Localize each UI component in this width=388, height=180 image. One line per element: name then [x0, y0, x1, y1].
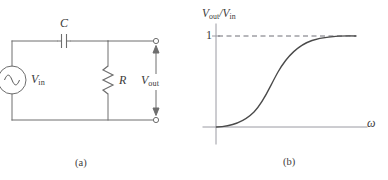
plot-y-axis-label-den-sub: in [230, 12, 236, 21]
plot-x-axis-label: ω [367, 117, 375, 129]
output-terminal-bottom [153, 117, 158, 122]
output-terminal-top [153, 38, 158, 43]
sine-wave-icon [5, 75, 20, 85]
output-label-subscript: out [148, 79, 159, 88]
vout-arrowhead-up [153, 46, 159, 54]
output-label: Vout [141, 74, 159, 88]
capacitor-label: C [60, 17, 68, 29]
ac-source-circle [0, 66, 26, 94]
source-label-subscript: in [38, 78, 45, 87]
plot-y-axis-label-num-sub: out [209, 12, 219, 21]
plot-ytick-label-1: 1 [206, 29, 212, 41]
resistor-symbol [103, 66, 113, 94]
source-label: Vin [31, 73, 45, 87]
circuit-schematic [0, 0, 388, 180]
figure-root: C Vin R Vout (a) Vout/Vin 1 ω (b) [0, 0, 388, 180]
capacitor-symbol [62, 34, 67, 48]
plot-y-axis-label: Vout/Vin [202, 8, 236, 21]
caption-a: (a) [75, 158, 87, 169]
plot-response-curve [217, 36, 357, 127]
resistor-label: R [119, 74, 126, 86]
vout-arrowhead-down [153, 108, 159, 116]
caption-b: (b) [283, 157, 295, 168]
